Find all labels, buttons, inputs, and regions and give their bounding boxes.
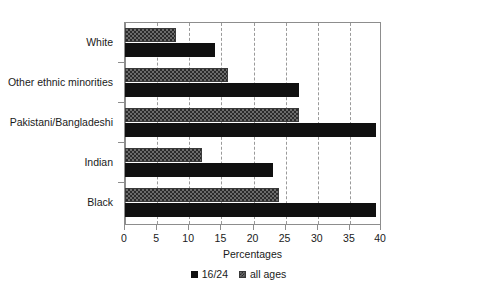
x-axis-title: Percentages (124, 248, 381, 260)
x-axis-tick-30 (317, 225, 318, 230)
x-axis-tick-0 (124, 225, 125, 230)
bar-other-ethnic-minorities-16-24 (125, 83, 299, 97)
y-axis-labels: White Other ethnic minorities Pakistani/… (0, 0, 119, 298)
legend-entry-16-24: 16/24 (191, 268, 228, 280)
bar-pakistani-bangladeshi-16-24 (125, 123, 376, 137)
plot-area (124, 22, 381, 225)
legend-entry-all-ages: all ages (239, 268, 286, 280)
y-axis-label-indian: Indian (84, 156, 113, 168)
x-axis-tick-40 (380, 225, 381, 230)
bar-other-ethnic-minorities-all-ages (125, 68, 228, 82)
x-axis-tick-5 (156, 225, 157, 230)
bar-indian-all-ages (125, 148, 202, 162)
bar-indian-16-24 (125, 163, 273, 177)
bar-group-indian (125, 146, 380, 184)
y-axis-label-black: Black (87, 196, 113, 208)
x-axis-tick-20 (253, 225, 254, 230)
legend-label-all-ages: all ages (250, 268, 286, 280)
x-axis-tick-15 (220, 225, 221, 230)
bar-white-all-ages (125, 28, 176, 42)
bar-group-black (125, 186, 380, 224)
bar-chart-figure: White Other ethnic minorities Pakistani/… (0, 0, 477, 298)
solid-square-icon (191, 271, 198, 278)
x-axis-tick-25 (285, 225, 286, 230)
y-axis-label-white: White (86, 36, 113, 48)
bar-black-16-24 (125, 203, 376, 217)
x-axis-tick-10 (188, 225, 189, 230)
legend-label-16-24: 16/24 (202, 268, 228, 280)
bar-group-white (125, 26, 380, 64)
chart-legend: 16/24 all ages (0, 268, 477, 280)
bar-white-16-24 (125, 43, 215, 57)
bar-black-all-ages (125, 188, 279, 202)
x-axis-tick-35 (349, 225, 350, 230)
bar-group-other-ethnic-minorities (125, 66, 380, 104)
bar-group-pakistani-bangladeshi (125, 106, 380, 144)
hatched-square-icon (239, 271, 246, 278)
y-axis-label-other-ethnic-minorities: Other ethnic minorities (8, 76, 113, 88)
bar-pakistani-bangladeshi-all-ages (125, 108, 299, 122)
x-axis-ticklabel-40: 40 (360, 232, 400, 244)
y-axis-label-pakistani-bangladeshi: Pakistani/Bangladeshi (10, 116, 113, 128)
